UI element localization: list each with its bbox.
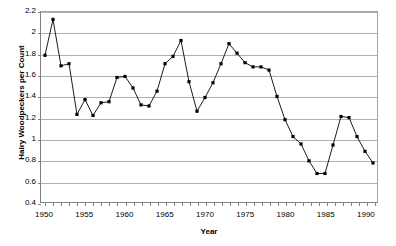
x-tick-mark: [134, 202, 135, 206]
x-tick-mark: [359, 202, 360, 206]
y-tick-label: 1.6: [25, 71, 36, 79]
data-point-marker: [363, 150, 366, 153]
x-tick-mark: [206, 202, 207, 206]
data-point-marker: [171, 55, 174, 58]
data-point-marker: [155, 90, 158, 93]
x-tick-label: 1955: [75, 210, 93, 219]
x-tick-mark: [101, 202, 102, 206]
data-point-marker: [131, 86, 134, 89]
x-axis-tick-marks: [41, 202, 377, 206]
chart-container: 0.40.60.811.21.41.61.822.2 Hairy Woodpec…: [0, 0, 396, 246]
x-tick-mark: [367, 202, 368, 206]
data-point-marker: [75, 113, 78, 116]
y-tick-label: 1.4: [25, 92, 36, 100]
data-point-marker: [147, 104, 150, 107]
x-tick-label: 1970: [196, 210, 214, 219]
data-point-marker: [179, 39, 182, 42]
y-tick-label: 2: [32, 28, 36, 36]
data-point-marker: [163, 62, 166, 65]
x-tick-mark: [69, 202, 70, 206]
data-point-marker: [59, 64, 62, 67]
data-point-marker: [83, 98, 86, 101]
x-axis-title: Year: [40, 227, 378, 236]
data-point-marker: [219, 62, 222, 65]
data-point-marker: [315, 172, 318, 175]
x-tick-mark: [295, 202, 296, 206]
x-tick-label: 1965: [156, 210, 174, 219]
x-tick-mark: [190, 202, 191, 206]
data-point-marker: [307, 159, 310, 162]
plot-area: [40, 11, 378, 203]
y-axis-title-wrapper: Hairy Woodpeckers per Count: [0, 0, 14, 246]
x-tick-mark: [343, 202, 344, 206]
x-tick-mark: [85, 202, 86, 206]
x-tick-mark: [254, 202, 255, 206]
data-point-marker: [259, 65, 262, 68]
data-point-marker: [123, 75, 126, 78]
data-point-marker: [243, 61, 246, 64]
x-tick-mark: [61, 202, 62, 206]
data-point-marker: [323, 172, 326, 175]
x-tick-mark: [286, 202, 287, 206]
data-point-marker: [251, 65, 254, 68]
data-point-marker: [43, 54, 46, 57]
series-line: [45, 19, 373, 173]
data-point-marker: [347, 116, 350, 119]
x-tick-mark: [174, 202, 175, 206]
data-point-marker: [211, 81, 214, 84]
x-tick-mark: [311, 202, 312, 206]
data-point-marker: [187, 80, 190, 83]
x-tick-mark: [214, 202, 215, 206]
x-tick-mark: [158, 202, 159, 206]
y-tick-label: 2.2: [25, 7, 36, 15]
data-point-marker: [339, 115, 342, 118]
data-point-marker: [355, 135, 358, 138]
x-tick-mark: [246, 202, 247, 206]
x-tick-mark: [270, 202, 271, 206]
data-point-marker: [291, 135, 294, 138]
x-tick-label: 1990: [357, 210, 375, 219]
x-tick-mark: [53, 202, 54, 206]
x-axis-tick-labels: 195019551960196519701975198019851990: [40, 210, 378, 222]
data-point-marker: [99, 101, 102, 104]
data-point-marker: [331, 143, 334, 146]
x-tick-mark: [375, 202, 376, 206]
x-tick-mark: [335, 202, 336, 206]
y-axis-title: Hairy Woodpeckers per Count: [17, 28, 26, 178]
data-point-marker: [227, 42, 230, 45]
data-point-marker: [275, 95, 278, 98]
data-point-marker: [115, 76, 118, 79]
x-tick-mark: [150, 202, 151, 206]
x-tick-mark: [351, 202, 352, 206]
x-tick-label: 1950: [35, 210, 53, 219]
y-tick-label: 0.8: [25, 156, 36, 164]
x-tick-label: 1980: [277, 210, 295, 219]
x-tick-mark: [126, 202, 127, 206]
x-tick-mark: [238, 202, 239, 206]
data-point-marker: [299, 142, 302, 145]
data-point-marker: [91, 114, 94, 117]
data-point-marker: [235, 52, 238, 55]
data-point-marker: [267, 68, 270, 71]
data-point-marker: [67, 62, 70, 65]
data-point-marker: [203, 96, 206, 99]
x-tick-mark: [109, 202, 110, 206]
y-tick-label: 1.8: [25, 50, 36, 58]
x-tick-mark: [278, 202, 279, 206]
x-tick-mark: [262, 202, 263, 206]
x-tick-mark: [230, 202, 231, 206]
y-tick-label: 0.4: [25, 199, 36, 207]
y-tick-label: 1: [32, 135, 36, 143]
y-tick-label: 1.2: [25, 114, 36, 122]
x-tick-mark: [166, 202, 167, 206]
data-point-marker: [195, 110, 198, 113]
data-point-marker: [283, 118, 286, 121]
x-tick-mark: [93, 202, 94, 206]
x-tick-mark: [45, 202, 46, 206]
x-tick-mark: [327, 202, 328, 206]
x-tick-mark: [182, 202, 183, 206]
x-tick-label: 1960: [116, 210, 134, 219]
data-point-marker: [51, 18, 54, 21]
data-point-marker: [371, 161, 374, 164]
x-tick-mark: [303, 202, 304, 206]
